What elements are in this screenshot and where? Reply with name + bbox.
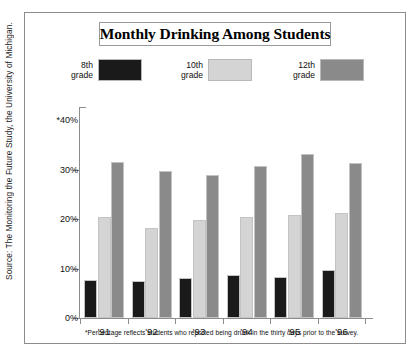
bar	[132, 281, 145, 318]
legend-item-label: 12th grade	[283, 60, 315, 81]
bar	[335, 213, 348, 318]
x-axis-tick	[365, 319, 366, 324]
bar	[274, 277, 287, 318]
bar	[288, 215, 301, 318]
legend-item: 10th grade	[171, 55, 252, 85]
y-axis-top-cap	[79, 107, 86, 108]
bar	[301, 154, 314, 318]
bar	[111, 162, 124, 318]
bar	[206, 175, 219, 318]
chart-frame: Monthly Drinking Among Students 8th grad…	[24, 12, 406, 344]
legend-item-label: 10th grade	[171, 60, 203, 81]
bar	[179, 278, 192, 318]
x-axis-line	[79, 318, 373, 319]
bar	[193, 220, 206, 318]
bar	[84, 280, 97, 318]
x-axis-tick	[318, 319, 319, 324]
chart-footnote: *Percentage reflects students who report…	[85, 329, 385, 336]
bar	[240, 217, 253, 318]
y-axis-line	[79, 107, 80, 319]
legend-item-swatch	[98, 59, 142, 81]
x-axis-tick	[128, 319, 129, 324]
y-axis-tick-label: 10%	[60, 264, 78, 274]
y-axis-tick-label: 20%	[60, 214, 78, 224]
bar	[159, 171, 172, 319]
page-title: Monthly Drinking Among Students	[100, 25, 331, 43]
bar	[145, 228, 158, 318]
x-axis-tick	[223, 319, 224, 324]
chart-legend: 8th grade10th grade12th grade	[61, 55, 379, 85]
y-axis-tick-label: 0%	[65, 313, 78, 323]
x-axis-tick	[270, 319, 271, 324]
bar	[98, 217, 111, 318]
plot-area: 0%10%20%30%*40%'91'92'93'94'95'96	[79, 105, 379, 327]
bar	[322, 270, 335, 318]
legend-item-swatch	[320, 59, 364, 81]
legend-item-swatch	[208, 59, 252, 81]
x-axis-tick	[80, 319, 81, 324]
x-axis-tick	[175, 319, 176, 324]
chart-title-box: Monthly Drinking Among Students	[99, 22, 331, 46]
legend-item: 12th grade	[283, 55, 364, 85]
bar	[227, 275, 240, 318]
chart-screenshot: Source: The Monitoring the Future Study,…	[0, 0, 419, 359]
bar	[254, 166, 267, 318]
source-credit: Source: The Monitoring the Future Study,…	[0, 22, 18, 348]
legend-item: 8th grade	[61, 55, 142, 85]
bar	[349, 163, 362, 318]
legend-item-label: 8th grade	[61, 60, 93, 81]
y-axis-tick-label: 30%	[60, 165, 78, 175]
y-axis-tick-label: *40%	[56, 115, 78, 125]
